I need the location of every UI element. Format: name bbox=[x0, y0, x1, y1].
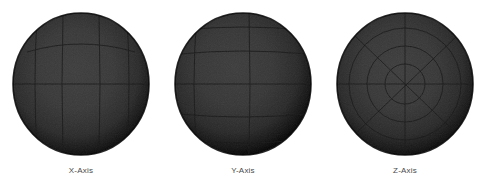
axis-label-y: Y-Axis bbox=[162, 166, 324, 176]
axis-label-x: X-Axis bbox=[0, 166, 162, 176]
panel-z-axis: Z-Axis bbox=[324, 0, 486, 193]
sphere-x-axis-graphic bbox=[11, 10, 151, 158]
sphere-z-axis bbox=[335, 10, 475, 158]
sphere-z-axis-graphic bbox=[335, 10, 475, 158]
sphere-y-axis-graphic bbox=[173, 10, 313, 158]
sphere-x-axis bbox=[11, 10, 151, 158]
axis-label-z: Z-Axis bbox=[324, 166, 486, 176]
sphere-y-axis bbox=[173, 10, 313, 158]
sphere-figure: X-Axis bbox=[0, 0, 486, 193]
panel-y-axis: Y-Axis bbox=[162, 0, 324, 193]
panel-x-axis: X-Axis bbox=[0, 0, 162, 193]
